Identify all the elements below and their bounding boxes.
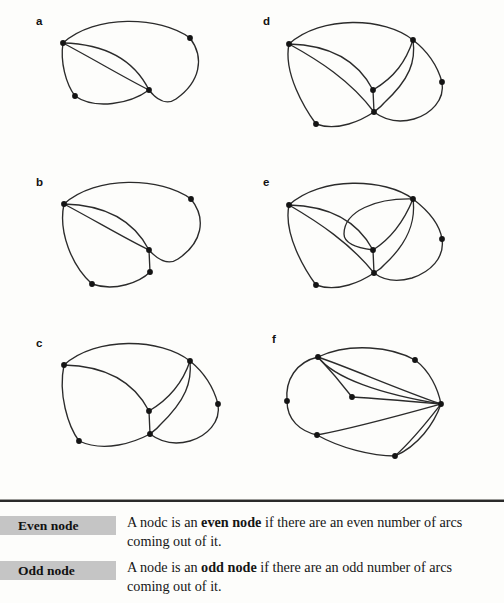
graph-node (187, 358, 193, 364)
graph-label-a: a (36, 16, 42, 28)
graph-f-drawing (284, 348, 444, 459)
graph-arc (287, 401, 317, 435)
graph-arc (374, 40, 414, 112)
graph-arc (289, 183, 413, 205)
graph-arc (149, 38, 198, 102)
graph-arc (317, 404, 441, 435)
graph-label-f: f (272, 334, 276, 346)
graph-node (410, 37, 416, 43)
graph-node (412, 357, 418, 363)
graph-arc (395, 404, 441, 456)
graph-node (314, 432, 320, 438)
graph-node (89, 281, 95, 287)
graph-arc (92, 272, 150, 287)
graph-arc (373, 250, 374, 273)
graph-arc (373, 199, 413, 250)
graph-label-c: c (36, 338, 42, 350)
graph-node (286, 202, 292, 208)
graph-arc (150, 361, 190, 434)
graph-d-drawing (286, 22, 445, 126)
graph-node (286, 41, 292, 47)
graph-node (147, 431, 153, 437)
graph-arc (289, 22, 413, 44)
graph-arc (63, 204, 92, 284)
graph-b-drawing (61, 182, 200, 287)
graph-node (371, 109, 377, 115)
graph-label-d: d (263, 16, 270, 28)
graph-node (313, 121, 319, 127)
graph-node (371, 270, 377, 276)
definition-text-even-node: A nodc is an even node if there are an e… (127, 513, 487, 551)
graph-node (188, 196, 194, 202)
graph-node (392, 453, 398, 459)
graph-node (72, 93, 78, 99)
graph-node (313, 282, 319, 288)
graph-node (315, 354, 321, 360)
graph-node (60, 40, 66, 46)
graph-figure-svg (0, 0, 504, 495)
graph-arc (149, 411, 150, 434)
graph-arc (64, 204, 149, 250)
graph-node (61, 362, 67, 368)
graph-arc (150, 404, 218, 443)
graph-arc (63, 43, 149, 90)
graph-node (146, 408, 152, 414)
graph-arc (149, 250, 150, 272)
divider-thick (0, 500, 504, 502)
graph-node (439, 79, 445, 85)
graph-node (370, 247, 376, 253)
graph-arc (190, 361, 218, 404)
graph-a-drawing (60, 21, 198, 104)
graph-arc (64, 343, 190, 365)
definition-text-even-node-bold: even node (201, 514, 261, 530)
page-root: a b c d e f Even node A nodc is an even … (0, 0, 504, 603)
graph-arc (415, 360, 441, 404)
graph-node (187, 35, 193, 41)
graph-arc (413, 40, 442, 82)
graph-arc (352, 397, 441, 404)
definition-text-odd-node-pre: A node is an (127, 559, 201, 575)
graph-arc (75, 90, 149, 104)
definition-text-odd-node-line2: coming out of it. (127, 577, 487, 596)
graph-arc (62, 365, 79, 441)
graph-arc (149, 199, 200, 262)
definition-term-odd-node: Odd node (0, 561, 116, 580)
graph-label-e: e (263, 177, 269, 189)
graph-arc (316, 273, 374, 288)
graph-arc (62, 43, 75, 96)
graph-node (147, 269, 153, 275)
graph-node (215, 401, 221, 407)
graph-arc (318, 348, 415, 360)
graph-arc (64, 182, 191, 204)
definition-table: Even node A nodc is an even node if ther… (0, 495, 504, 603)
graph-arc (287, 357, 318, 401)
graph-arc (374, 82, 442, 121)
graph-arc (289, 205, 373, 250)
definition-text-odd-node: A node is an odd node if there are an od… (127, 558, 487, 596)
graph-node (146, 87, 152, 93)
graph-node (76, 438, 82, 444)
graph-arc (373, 90, 374, 112)
definition-text-even-node-pre: A nodc is an (127, 514, 201, 530)
definition-text-odd-node-post: if there are an odd number of arcs (257, 559, 452, 575)
graph-arc (373, 40, 413, 90)
graph-arc (64, 365, 149, 411)
graph-arc (317, 435, 395, 456)
graph-arc (316, 112, 374, 127)
graph-arc (149, 361, 190, 411)
graph-arc (288, 44, 316, 124)
definition-text-even-node-line2: coming out of it. (127, 532, 487, 551)
definition-term-even-node: Even node (0, 516, 116, 535)
definition-text-odd-node-bold: odd node (201, 559, 257, 575)
graph-node (349, 394, 355, 400)
graph-arc (413, 199, 442, 239)
graph-c-drawing (61, 343, 221, 446)
graph-node (61, 201, 67, 207)
graph-node (146, 247, 152, 253)
graph-arc (374, 239, 442, 280)
graph-figure-panel: a b c d e f (0, 0, 504, 495)
definition-text-even-node-post: if there are an even number of arcs (261, 514, 462, 530)
graph-node (410, 196, 416, 202)
graph-node (439, 236, 445, 242)
graph-node (438, 401, 444, 407)
